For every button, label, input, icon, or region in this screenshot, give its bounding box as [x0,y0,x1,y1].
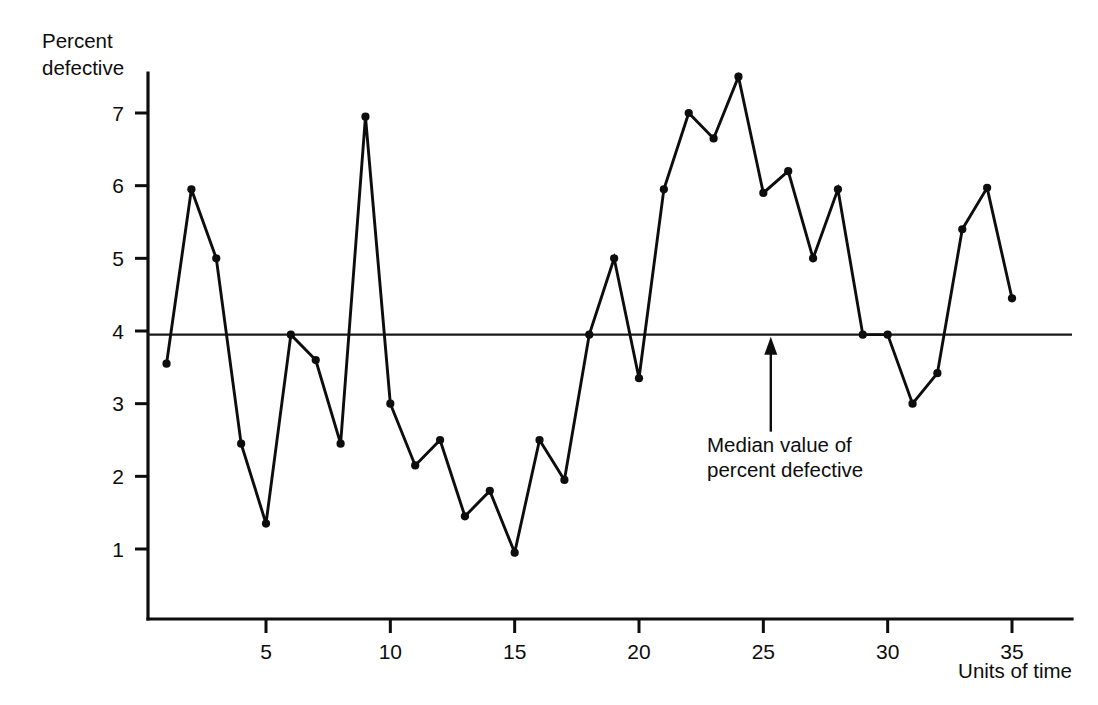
data-point [511,549,519,557]
y-tick-label-7: 7 [112,102,124,125]
x-tick-label-30: 30 [876,640,899,663]
chart-canvas: Percent defective 1234567 5101520253035 … [0,0,1098,705]
run-chart-figure: Percent defective 1234567 5101520253035 … [0,0,1098,705]
data-point [312,356,320,364]
data-point [983,184,991,192]
data-point [386,400,394,408]
y-tick-label-3: 3 [112,392,124,415]
data-point [535,436,543,444]
data-point [610,254,618,262]
y-tick-label-2: 2 [112,465,124,488]
data-point [734,73,742,81]
data-point [262,519,270,527]
x-tick-label-20: 20 [627,640,650,663]
data-point [958,225,966,233]
data-point [411,461,419,469]
data-point [635,374,643,382]
data-point [212,254,220,262]
y-tick-label-1: 1 [112,538,124,561]
data-point [585,331,593,339]
data-point [237,440,245,448]
data-point [710,134,718,142]
y-tick-label-5: 5 [112,247,124,270]
data-point [287,331,295,339]
data-point [784,167,792,175]
data-point [660,185,668,193]
data-point [759,189,767,197]
x-tick-label-10: 10 [379,640,402,663]
data-point [187,185,195,193]
data-point [859,331,867,339]
x-tick-label-15: 15 [503,640,526,663]
data-point [884,331,892,339]
data-point [461,512,469,520]
data-point [162,360,170,368]
data-point [809,254,817,262]
data-point [1008,294,1016,302]
data-point [560,476,568,484]
x-tick-label-25: 25 [752,640,775,663]
y-axis-title-line2: defective [42,56,124,79]
data-point [908,400,916,408]
y-tick-label-4: 4 [112,320,124,343]
data-point [834,185,842,193]
data-point [337,440,345,448]
x-axis-title: Units of time [958,659,1072,682]
data-point [436,436,444,444]
data-point [685,109,693,117]
data-point [361,113,369,121]
data-point [486,487,494,495]
y-axis-title-line1: Percent [42,29,113,52]
x-tick-label-5: 5 [260,640,272,663]
median-annotation-line1: Median value of [707,433,852,456]
y-tick-label-6: 6 [112,174,124,197]
chart-background [0,0,1098,705]
median-annotation-line2: percent defective [707,458,863,481]
data-point [933,369,941,377]
